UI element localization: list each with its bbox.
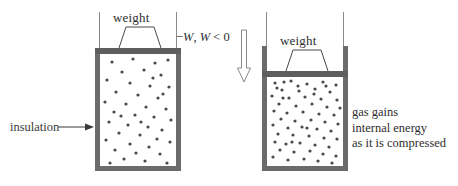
work-label: −W, W < 0 bbox=[176, 30, 230, 45]
work-minus-sign: − bbox=[176, 30, 183, 44]
physics-diagram: weight bbox=[0, 0, 458, 186]
result-caption-line-3: as it is compressed bbox=[352, 136, 446, 152]
work-symbol-2: W bbox=[200, 30, 210, 44]
left-guide-rail-left bbox=[99, 12, 100, 52]
right-gas-molecules bbox=[267, 77, 343, 166]
result-caption-line-1: gas gains bbox=[352, 105, 446, 121]
right-weight-label: weight bbox=[280, 33, 317, 49]
left-cylinder-wall-bottom bbox=[95, 166, 181, 171]
left-gas-molecules bbox=[100, 54, 176, 166]
right-cylinder-wall-right bbox=[343, 77, 348, 171]
work-relation: < 0 bbox=[210, 30, 230, 44]
down-arrow-outline-icon bbox=[237, 30, 253, 84]
result-caption: gas gains internal energy as it is compr… bbox=[352, 105, 446, 152]
insulation-label: insulation bbox=[10, 120, 59, 135]
left-weight-label: weight bbox=[113, 10, 150, 26]
insulation-arrow-icon bbox=[58, 122, 94, 132]
work-symbol-1: W bbox=[183, 30, 193, 44]
left-cylinder-wall-right bbox=[176, 54, 181, 171]
result-caption-line-2: internal energy bbox=[352, 121, 446, 137]
right-cylinder-wall-bottom bbox=[262, 166, 348, 171]
